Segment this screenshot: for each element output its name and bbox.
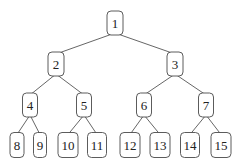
tree-node-2: 2 <box>48 52 64 76</box>
tree-node-4: 4 <box>23 93 38 117</box>
edge-7-14 <box>190 115 206 135</box>
node-label: 6 <box>141 98 148 113</box>
tree-node-15: 15 <box>211 133 231 158</box>
node-label: 10 <box>62 138 75 153</box>
node-label: 14 <box>184 138 198 153</box>
edge-2-5 <box>56 74 84 95</box>
edge-5-10 <box>68 115 84 135</box>
tree-node-3: 3 <box>167 52 183 76</box>
tree-node-10: 10 <box>58 133 78 158</box>
node-label: 8 <box>14 138 21 153</box>
edge-4-8 <box>17 115 30 135</box>
tree-node-14: 14 <box>181 133 200 158</box>
tree-node-5: 5 <box>77 93 92 117</box>
node-label: 2 <box>53 57 60 72</box>
node-label: 12 <box>124 138 137 153</box>
tree-node-6: 6 <box>137 93 152 117</box>
edge-2-4 <box>30 74 56 95</box>
node-label: 3 <box>172 57 179 72</box>
edge-4-9 <box>30 115 40 135</box>
node-label: 13 <box>154 138 167 153</box>
node-label: 5 <box>81 98 88 113</box>
node-label: 9 <box>37 138 44 153</box>
node-label: 15 <box>215 138 228 153</box>
tree-node-11: 11 <box>88 133 107 158</box>
edges-layer <box>17 33 221 135</box>
tree-node-12: 12 <box>120 133 140 158</box>
edge-7-15 <box>206 115 221 135</box>
node-label: 1 <box>112 16 119 31</box>
edge-5-11 <box>84 115 97 135</box>
binary-tree-diagram: 123456789101112131415 <box>0 0 245 165</box>
tree-node-9: 9 <box>34 133 47 158</box>
tree-node-1: 1 <box>107 11 123 35</box>
edge-6-12 <box>130 115 144 135</box>
tree-node-13: 13 <box>150 133 170 158</box>
edge-3-6 <box>144 74 175 95</box>
node-label: 11 <box>91 138 104 153</box>
edge-1-2 <box>56 33 115 54</box>
edge-6-13 <box>144 115 160 135</box>
node-label: 4 <box>27 98 34 113</box>
tree-node-7: 7 <box>199 93 214 117</box>
edge-1-3 <box>115 33 175 54</box>
edge-3-7 <box>175 74 206 95</box>
tree-node-8: 8 <box>10 133 24 158</box>
node-label: 7 <box>203 98 210 113</box>
